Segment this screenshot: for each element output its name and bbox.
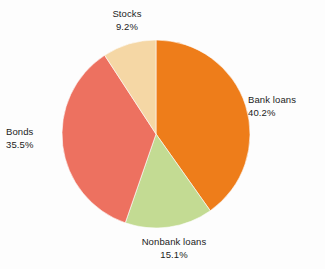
slice-label-bonds-name: Bonds (6, 126, 68, 139)
slice-label-stocks-percent: 9.2% (84, 21, 170, 34)
slice-label-nonbank-loans: Nonbank loans 15.1% (118, 236, 230, 261)
slice-label-bonds: Bonds 35.5% (6, 126, 68, 151)
slice-label-nonbank-loans-percent: 15.1% (118, 249, 230, 262)
slice-label-stocks-name: Stocks (84, 8, 170, 21)
slice-label-stocks: Stocks 9.2% (84, 8, 170, 33)
slice-label-bank-loans: Bank loans 40.2% (248, 94, 322, 119)
slice-label-bonds-percent: 35.5% (6, 139, 68, 152)
slice-label-nonbank-loans-name: Nonbank loans (118, 236, 230, 249)
slice-label-bank-loans-percent: 40.2% (248, 107, 322, 120)
pie-slice-group (62, 40, 250, 228)
slice-label-bank-loans-name: Bank loans (248, 94, 322, 107)
pie-chart-figure: Bank loans 40.2% Nonbank loans 15.1% Bon… (0, 0, 325, 269)
